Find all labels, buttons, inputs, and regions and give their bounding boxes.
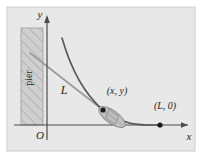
tractrix-diagram: y x O L (x, y) (L, 0) pier [0,0,202,158]
boat-point-label: (x, y) [107,85,128,97]
origin-label: O [36,129,44,141]
rope-length-label: L [60,83,68,97]
x-axis-label: x [186,130,192,142]
x-intercept-point-marker [157,122,162,127]
figure-container: y x O L (x, y) (L, 0) pier [0,0,202,158]
y-axis-label: y [37,8,43,20]
pier-label: pier [23,70,34,86]
x-intercept-label: (L, 0) [154,100,177,112]
boat-point-marker [100,107,105,112]
